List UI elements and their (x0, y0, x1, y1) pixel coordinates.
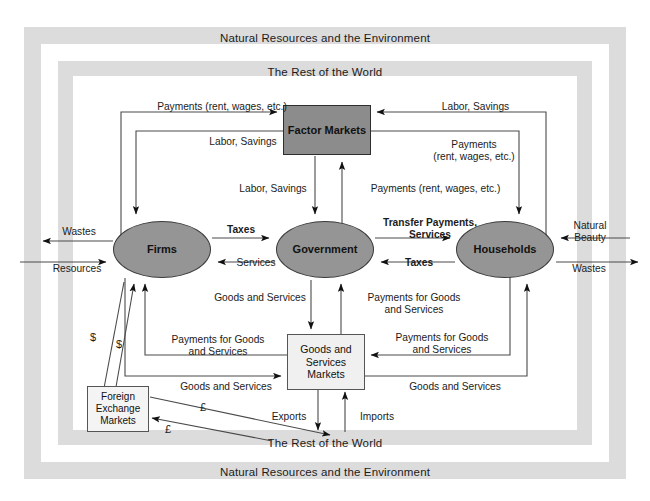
node-firms[interactable]: Firms (113, 221, 211, 278)
label-environment-wastes-right: Wastes (558, 263, 620, 275)
label-gsm-to-firms-payments: Payments for Goods and Services (155, 334, 281, 358)
label-factor-to-households-payments: Payments (rent, wages, etc.) (400, 139, 548, 163)
label-environment-wastes-left: Wastes (48, 226, 110, 238)
label-imports: Imports (350, 411, 404, 423)
node-foreign-exchange-markets[interactable]: Foreign Exchange Markets (87, 386, 149, 432)
label-gsm-to-government-payments: Payments for Goods and Services (350, 292, 478, 316)
label-firms-to-factor-payments: Payments (rent, wages, etc.) (132, 101, 312, 113)
label-households-to-gsm-payments: Payments for Goods and Services (378, 332, 506, 356)
label-fx-dollars-in: $ (112, 338, 126, 351)
label-factor-to-government-labor: Labor, Savings (208, 183, 338, 195)
label-government-to-firms-services: Services (218, 257, 294, 269)
label-factor-to-firms-labor: Labor, Savings (178, 136, 308, 148)
label-government-to-gsm-goods: Goods and Services (198, 292, 322, 304)
label-households-to-factor-labor: Labor, Savings (408, 101, 543, 113)
label-fx-pounds-out: £ (197, 401, 209, 414)
node-goods-and-services-markets[interactable]: Goods and Services Markets (287, 334, 365, 390)
label-fx-pounds-in: £ (162, 423, 174, 436)
label-government-to-households-transfers: Transfer Payments, Services (370, 217, 490, 241)
circular-flow-diagram: Natural Resources and the Environment Th… (0, 0, 650, 501)
label-environment-natural-beauty-right: Natural Beauty (558, 220, 622, 244)
label-firms-to-government-taxes: Taxes (208, 224, 274, 236)
label-households-to-government-taxes: Taxes (382, 257, 456, 269)
label-environment-resources-left: Resources (42, 263, 112, 275)
label-firms-to-gsm-goods: Goods and Services (163, 381, 289, 393)
label-exports: Exports (262, 411, 316, 423)
label-gsm-to-households-goods: Goods and Services (392, 381, 518, 393)
node-government[interactable]: Government (276, 221, 374, 278)
label-fx-dollars-out: $ (86, 331, 100, 344)
label-government-to-factor-payments: Payments (rent, wages, etc.) (348, 183, 523, 195)
